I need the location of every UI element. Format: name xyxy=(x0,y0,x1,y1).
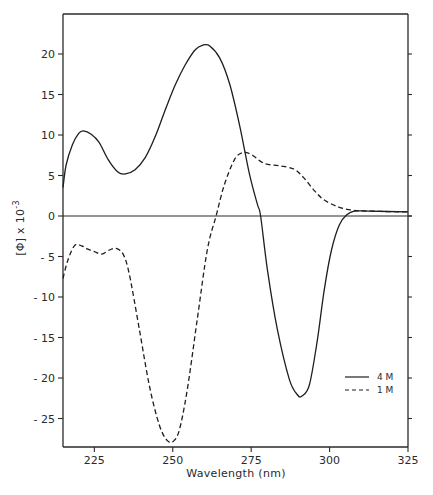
y-ticks: - 25- 20- 15- 10- 505101520 xyxy=(34,48,412,426)
y-tick-label: - 20 xyxy=(34,372,55,385)
x-tick-label: 325 xyxy=(398,454,419,467)
x-ticks: 225250275300325 xyxy=(84,447,419,467)
series-line-4m xyxy=(63,44,408,397)
y-tick-label: - 10 xyxy=(34,291,55,304)
x-tick-label: 300 xyxy=(319,454,340,467)
svg-text:[Φ] x 10-3: [Φ] x 10-3 xyxy=(12,200,27,256)
y-axis-title-exponent: -3 xyxy=(12,200,21,209)
series-line-1m xyxy=(63,152,408,442)
y-tick-label: - 25 xyxy=(34,413,55,426)
y-tick-label: - 15 xyxy=(34,332,55,345)
x-tick-label: 225 xyxy=(84,454,105,467)
x-axis-title: Wavelength (nm) xyxy=(186,467,286,480)
series-layer xyxy=(63,44,408,442)
y-axis-title-main: [Φ] x 10 xyxy=(14,209,27,256)
legend-label-4m: 4 M xyxy=(377,372,393,382)
legend-label-1m: 1 M xyxy=(377,385,393,395)
cd-spectrum-chart: - 25- 20- 15- 10- 505101520 225250275300… xyxy=(0,0,433,495)
legend: 4 M 1 M xyxy=(345,372,393,395)
y-tick-label: 0 xyxy=(48,210,55,223)
plot-frame xyxy=(63,14,412,447)
y-tick-label: 5 xyxy=(48,170,55,183)
y-tick-label: 20 xyxy=(41,48,55,61)
y-axis-title: [Φ] x 10-3 xyxy=(12,200,27,256)
y-tick-label: 10 xyxy=(41,129,55,142)
x-tick-label: 275 xyxy=(241,454,262,467)
x-tick-label: 250 xyxy=(162,454,183,467)
y-tick-label: - 5 xyxy=(41,251,55,264)
y-tick-label: 15 xyxy=(41,89,55,102)
